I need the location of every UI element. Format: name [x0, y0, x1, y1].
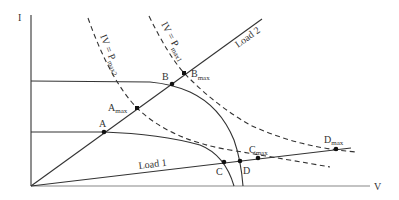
load2-label: Load 2	[233, 24, 262, 49]
svg-text:D: D	[243, 165, 250, 176]
svg-text:Amax: Amax	[108, 102, 128, 115]
svg-text:B: B	[162, 71, 169, 82]
axes: I V	[18, 12, 382, 192]
iv-curve-upper	[31, 81, 243, 186]
svg-text:Cmax: Cmax	[249, 144, 268, 157]
svg-text:IV = Pmax2: IV = Pmax2	[95, 33, 124, 78]
x-axis-label: V	[374, 181, 382, 192]
svg-text:C: C	[216, 166, 223, 177]
iv-characteristic-diagram: I V Load 2 Load 1 IV = Pmax2 IV = Pmax1 …	[0, 0, 399, 200]
svg-text:A: A	[99, 118, 107, 129]
point-Amax: Amax	[108, 102, 139, 115]
point-D: D	[238, 159, 251, 176]
svg-text:Dmax: Dmax	[324, 134, 344, 147]
pmax2-label: IV = Pmax2	[95, 33, 124, 78]
pmax2-hyperbola	[88, 18, 330, 167]
load1-label: Load 1	[138, 157, 167, 171]
iv-curve-lower	[31, 132, 234, 186]
point-C: C	[216, 160, 226, 177]
y-axis-label: I	[18, 12, 21, 23]
svg-text:Bmax: Bmax	[191, 68, 210, 82]
load1-line	[31, 148, 351, 186]
